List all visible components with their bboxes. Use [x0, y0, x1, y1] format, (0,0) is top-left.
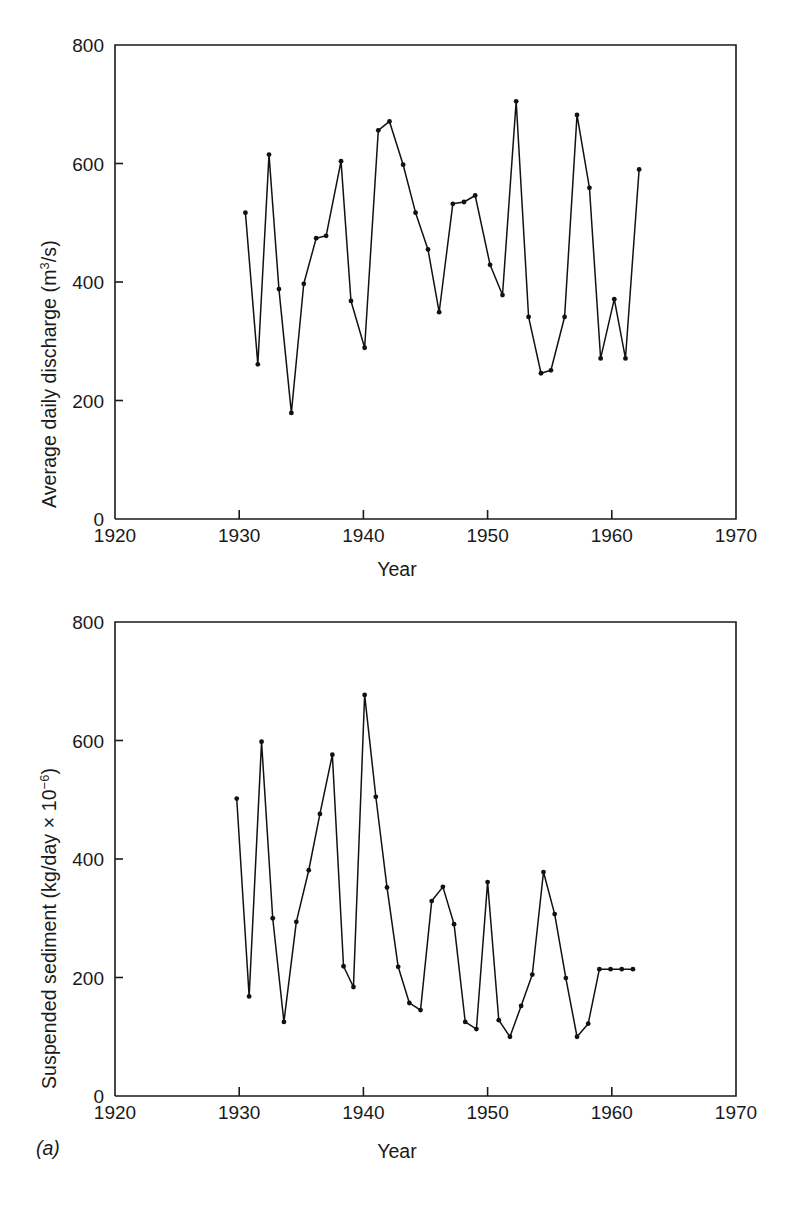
y-tick-label: 600 [72, 731, 104, 752]
data-point-marker [530, 972, 535, 977]
data-point-marker [440, 884, 445, 889]
y-tick-label: 200 [72, 391, 104, 412]
data-point-marker [452, 922, 457, 927]
y-tick-label: 400 [72, 272, 104, 293]
data-point-marker [587, 185, 592, 190]
data-point-marker [267, 152, 272, 157]
data-point-marker [549, 368, 554, 373]
data-point-marker [437, 310, 442, 315]
data-point-marker [407, 1001, 412, 1006]
data-point-marker [598, 356, 603, 361]
data-point-marker [450, 201, 455, 206]
panel-letter-text: (a) [36, 1137, 60, 1159]
data-point-marker [362, 692, 367, 697]
y-tick-label: 200 [72, 968, 104, 989]
x-tick-label: 1950 [466, 1102, 508, 1123]
figure-panel-a: 0200400600800192019301940195019601970 Av… [0, 0, 794, 1207]
y-tick-label: 800 [72, 612, 104, 633]
data-point-marker [426, 247, 431, 252]
data-series-line [237, 695, 633, 1037]
data-point-marker [362, 345, 367, 350]
data-point-marker [418, 1008, 423, 1013]
data-point-marker [349, 299, 354, 304]
x-tick-label: 1920 [94, 525, 136, 546]
data-point-marker [619, 967, 624, 972]
chart-average-daily-discharge: 0200400600800192019301940195019601970 Av… [0, 0, 794, 600]
x-tick-label: 1950 [466, 525, 508, 546]
x-tick-label: 1930 [218, 1102, 260, 1123]
sediment-y-axis-title-text: Suspended sediment (kg/day × 10−6) [38, 768, 60, 1089]
sediment-plot-area: 0200400600800192019301940195019601970 [0, 577, 794, 1207]
data-point-marker [376, 128, 381, 133]
data-point-marker [306, 868, 311, 873]
data-point-marker [526, 315, 531, 320]
data-point-marker [608, 967, 613, 972]
panel-letter-label: (a) [36, 1137, 60, 1160]
data-point-marker [341, 964, 346, 969]
y-tick-label: 400 [72, 849, 104, 870]
data-point-marker [247, 994, 252, 999]
data-point-marker [387, 119, 392, 124]
discharge-y-axis-title-text: Average daily discharge (m3/s) [38, 240, 60, 508]
data-point-marker [243, 210, 248, 215]
chart-suspended-sediment: 0200400600800192019301940195019601970 Su… [0, 577, 794, 1207]
y-tick-label: 600 [72, 154, 104, 175]
data-point-marker [339, 159, 344, 164]
data-point-marker [575, 1034, 580, 1039]
data-point-marker [496, 1018, 501, 1023]
sediment-x-axis-title: Year [0, 1140, 794, 1163]
data-point-marker [294, 919, 299, 924]
data-point-marker [255, 362, 260, 367]
data-point-marker [259, 739, 264, 744]
data-point-marker [429, 899, 434, 904]
x-tick-label: 1960 [591, 525, 633, 546]
data-point-marker [631, 967, 636, 972]
x-tick-label: 1960 [591, 1102, 633, 1123]
data-point-marker [575, 113, 580, 118]
data-point-marker [623, 356, 628, 361]
data-point-marker [508, 1034, 513, 1039]
data-point-marker [277, 287, 282, 292]
data-point-marker [324, 233, 329, 238]
data-point-marker [500, 293, 505, 298]
data-series-line [245, 101, 639, 413]
data-point-marker [463, 1020, 468, 1025]
data-point-marker [330, 752, 335, 757]
data-point-marker [514, 99, 519, 104]
data-point-marker [552, 912, 557, 917]
data-point-marker [282, 1020, 287, 1025]
data-point-marker [385, 885, 390, 890]
x-tick-label: 1940 [342, 1102, 384, 1123]
plot-frame [115, 45, 736, 519]
y-tick-label: 800 [72, 35, 104, 56]
data-point-marker [270, 916, 275, 921]
data-point-marker [541, 870, 546, 875]
data-point-marker [314, 236, 319, 241]
data-point-marker [234, 796, 239, 801]
data-point-marker [563, 976, 568, 981]
data-point-marker [289, 411, 294, 416]
data-point-marker [474, 1027, 479, 1032]
data-point-marker [401, 162, 406, 167]
data-point-marker [597, 967, 602, 972]
x-tick-label: 1970 [715, 1102, 757, 1123]
data-point-marker [301, 281, 306, 286]
data-point-marker [413, 210, 418, 215]
data-point-marker [373, 794, 378, 799]
data-point-marker [485, 880, 490, 885]
data-point-marker [462, 200, 467, 205]
data-point-marker [318, 812, 323, 817]
x-tick-label: 1930 [218, 525, 260, 546]
data-point-marker [612, 297, 617, 302]
x-tick-label: 1940 [342, 525, 384, 546]
x-tick-label: 1920 [94, 1102, 136, 1123]
data-point-marker [473, 193, 478, 198]
data-point-marker [586, 1021, 591, 1026]
sediment-y-axis-title: Suspended sediment (kg/day × 10−6) [38, 768, 61, 1089]
discharge-plot-area: 0200400600800192019301940195019601970 [0, 0, 794, 600]
data-point-marker [519, 1004, 524, 1009]
data-point-marker [637, 167, 642, 172]
data-point-marker [562, 315, 567, 320]
sediment-x-axis-title-text: Year [377, 1140, 416, 1162]
data-point-marker [396, 964, 401, 969]
